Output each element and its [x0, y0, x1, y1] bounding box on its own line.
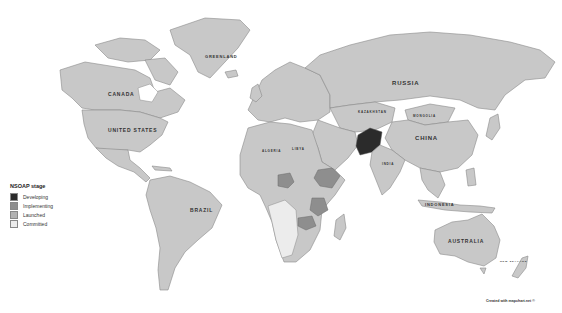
label-greenland: GREENLAND	[205, 54, 238, 59]
label-mongolia: MONGOLIA	[413, 114, 436, 118]
caribbean	[152, 166, 172, 171]
label-indonesia: INDONESIA	[425, 202, 454, 207]
south-america	[146, 176, 222, 290]
map-legend: NSOAP stage Developing Implementing Laun…	[10, 183, 53, 228]
label-china: CHINA	[415, 135, 438, 141]
madagascar	[334, 214, 346, 240]
iceland	[225, 70, 238, 78]
greenland	[170, 18, 250, 78]
label-russia: RUSSIA	[392, 80, 419, 86]
world-map: GREENLAND CANADA UNITED STATES RUSSIA KA…	[0, 0, 562, 313]
swatch-implementing	[10, 202, 18, 210]
legend-label: Launched	[23, 212, 45, 218]
swatch-committed	[10, 220, 18, 228]
southeast-asia	[420, 168, 445, 198]
legend-item-launched: Launched	[10, 210, 53, 219]
label-india: INDIA	[382, 162, 394, 166]
southern-africa-committed	[268, 200, 298, 258]
label-kazakhstan: KAZAKHSTAN	[358, 110, 387, 114]
japan	[486, 114, 500, 140]
label-canada: CANADA	[108, 91, 134, 97]
credit-text: Created with mapchart.net ©	[486, 299, 535, 303]
swatch-developing	[10, 193, 18, 201]
tasmania	[480, 268, 486, 274]
label-united-states: UNITED STATES	[108, 127, 157, 133]
legend-title: NSOAP stage	[10, 183, 53, 189]
philippines	[466, 168, 476, 186]
label-australia: AUSTRALIA	[448, 238, 484, 244]
legend-label: Developing	[23, 194, 48, 200]
swatch-launched	[10, 211, 18, 219]
arctic-islands	[95, 38, 160, 62]
legend-label: Implementing	[23, 203, 53, 209]
central-asia	[330, 102, 395, 132]
label-brazil: BRAZIL	[190, 207, 213, 213]
legend-item-committed: Committed	[10, 219, 53, 228]
legend-label: Committed	[23, 221, 47, 227]
legend-item-developing: Developing	[10, 192, 53, 201]
russia	[305, 32, 555, 110]
label-algeria: ALGERIA	[262, 149, 281, 153]
legend-item-implementing: Implementing	[10, 201, 53, 210]
mexico	[96, 148, 150, 182]
label-libya: LIBYA	[292, 147, 305, 151]
label-new-zealand: NEW ZEALAND	[500, 260, 527, 263]
